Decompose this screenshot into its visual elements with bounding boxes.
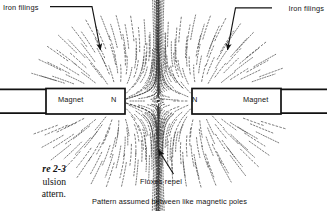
annotation-fluxes-repel: Fluxes repel (140, 178, 182, 186)
magnet-bars (0, 89, 327, 115)
leader-line-iron-filings-left (50, 7, 101, 50)
figure-bottom-caption: Pattern assumed between like magnetic po… (92, 198, 247, 206)
figure-caption-line-2: ulsion (0, 176, 66, 189)
magnet-left-label: Magnet (58, 96, 84, 104)
annotation-iron-filings-left: Iron filings (3, 4, 38, 12)
figure-caption-number: re 2-3 (0, 163, 66, 176)
magnet-right-pole-label: N (192, 96, 198, 104)
magnet-left-pole-label: N (111, 96, 117, 104)
magnet-right-label: Magnet (243, 96, 269, 104)
annotation-iron-filings-right: Iron filings (289, 5, 324, 13)
figure-caption-line-3: attern. (0, 188, 66, 201)
leader-line-iron-filings-right (228, 8, 273, 50)
figure-caption: re 2-3 ulsion attern. (0, 163, 66, 201)
magnetic-repulsion-figure: Iron filings Iron filings Fluxes repel M… (0, 0, 327, 211)
